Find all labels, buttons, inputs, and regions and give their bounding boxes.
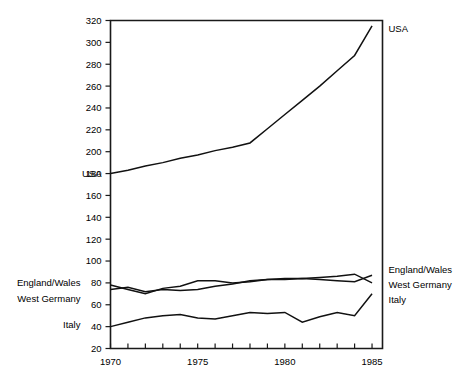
x-tick-label: 1985 <box>361 356 382 367</box>
y-tick-label: 140 <box>86 212 102 223</box>
y-tick-label: 320 <box>86 15 102 26</box>
plot-border <box>111 21 383 349</box>
series-label-left-italy: Italy <box>63 319 81 330</box>
y-tick-label: 80 <box>91 277 102 288</box>
y-tick-label: 220 <box>86 124 102 135</box>
y-tick-label: 100 <box>86 255 102 266</box>
series-label-left-england-wales: England/Wales <box>17 277 81 288</box>
series-label-right-west-germany: West Germany <box>389 279 452 290</box>
x-tick-label: 1975 <box>187 356 208 367</box>
data-series-group <box>111 26 373 327</box>
chart-canvas: 2040608010012014016018020022024026028030… <box>0 0 470 386</box>
y-tick-label: 300 <box>86 37 102 48</box>
y-tick-label: 40 <box>91 321 102 332</box>
series-line-italy <box>111 294 373 327</box>
y-tick-label: 260 <box>86 81 102 92</box>
series-label-right-italy: Italy <box>389 294 407 305</box>
y-tick-label: 120 <box>86 234 102 245</box>
series-line-usa <box>111 26 373 174</box>
y-tick-label: 60 <box>91 299 102 310</box>
y-axis-ticks: 2040608010012014016018020022024026028030… <box>86 15 111 354</box>
x-tick-label: 1980 <box>274 356 295 367</box>
series-label-right-usa: USA <box>389 23 409 34</box>
y-tick-label: 240 <box>86 102 102 113</box>
x-axis-ticks: 1970197519801985 <box>100 344 383 367</box>
y-tick-label: 20 <box>91 343 102 354</box>
series-label-right-england-wales: England/Wales <box>389 264 453 275</box>
axis-frame <box>111 21 383 349</box>
y-tick-label: 200 <box>86 146 102 157</box>
y-tick-label: 280 <box>86 59 102 70</box>
y-tick-label: 160 <box>86 190 102 201</box>
line-chart: 2040608010012014016018020022024026028030… <box>0 0 470 386</box>
series-label-left-usa: USA <box>82 168 102 179</box>
x-tick-label: 1970 <box>100 356 121 367</box>
series-label-left-west-germany: West Germany <box>17 293 80 304</box>
series-line-west-germany <box>111 275 373 291</box>
